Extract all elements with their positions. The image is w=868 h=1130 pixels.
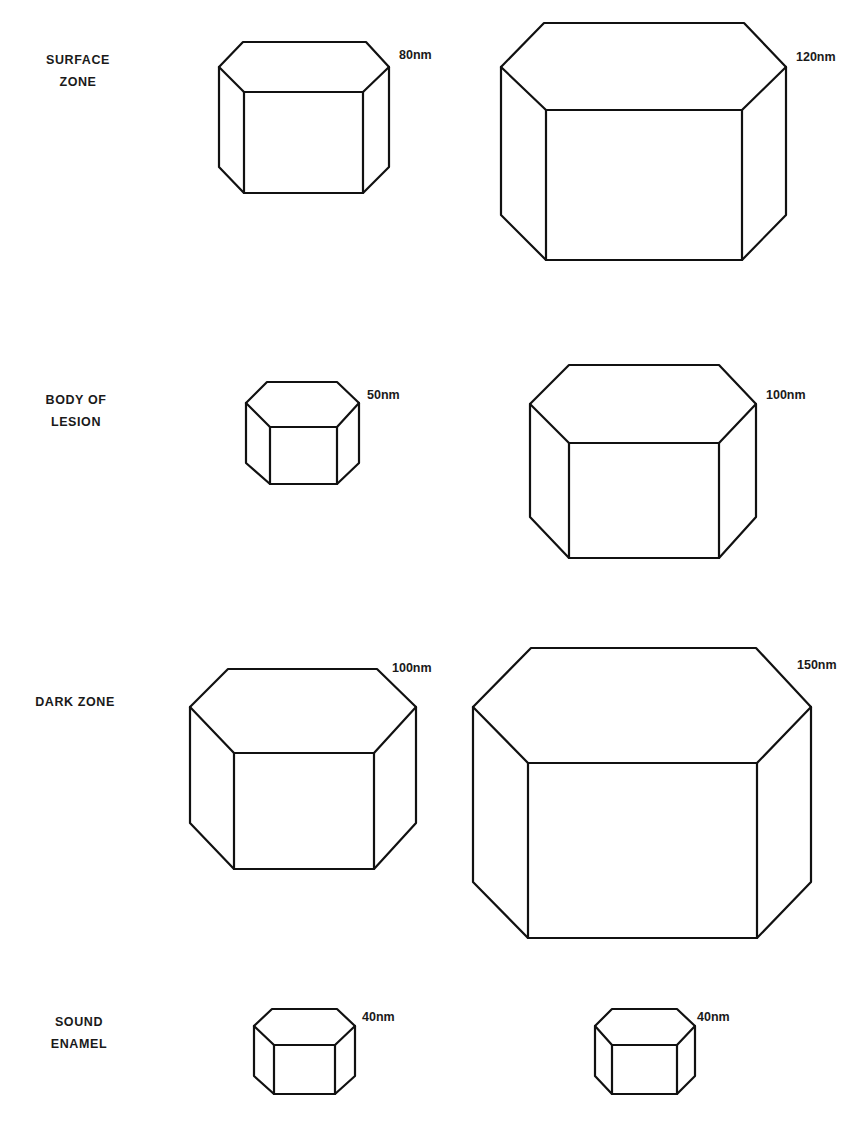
- crystal-surface-right: [501, 23, 786, 260]
- crystal-dark-left: [190, 669, 416, 869]
- crystal-body-left: [246, 382, 359, 484]
- zone-label-line: SOUND: [19, 1011, 139, 1033]
- crystal-body-right: [530, 365, 756, 558]
- size-label-surface-right: 120nm: [796, 50, 836, 64]
- size-label-body-left: 50nm: [367, 388, 400, 402]
- zone-label-line: BODY OF: [16, 389, 136, 411]
- crystal-layer: [190, 23, 811, 1094]
- zone-label-line: SURFACE: [18, 49, 138, 71]
- zone-label-body-of-lesion: BODY OF LESION: [16, 389, 136, 433]
- size-label-sound-right: 40nm: [697, 1010, 730, 1024]
- size-label-body-right: 100nm: [766, 388, 806, 402]
- zone-label-line: DARK ZONE: [15, 691, 135, 713]
- crystal-surface-left: [219, 42, 389, 193]
- zone-label-dark-zone: DARK ZONE: [15, 691, 135, 713]
- crystal-sound-right: [595, 1009, 695, 1094]
- zone-label-line: ENAMEL: [19, 1033, 139, 1055]
- size-label-dark-left: 100nm: [392, 661, 432, 675]
- size-label-surface-left: 80nm: [399, 48, 432, 62]
- zone-label-line: LESION: [16, 411, 136, 433]
- crystal-size-diagram: [0, 0, 868, 1130]
- crystal-dark-right: [473, 648, 811, 938]
- zone-label-surface-zone: SURFACE ZONE: [18, 49, 138, 93]
- size-label-dark-right: 150nm: [797, 658, 837, 672]
- crystal-sound-left: [254, 1009, 355, 1094]
- zone-label-sound-enamel: SOUND ENAMEL: [19, 1011, 139, 1055]
- zone-label-line: ZONE: [18, 71, 138, 93]
- size-label-sound-left: 40nm: [362, 1010, 395, 1024]
